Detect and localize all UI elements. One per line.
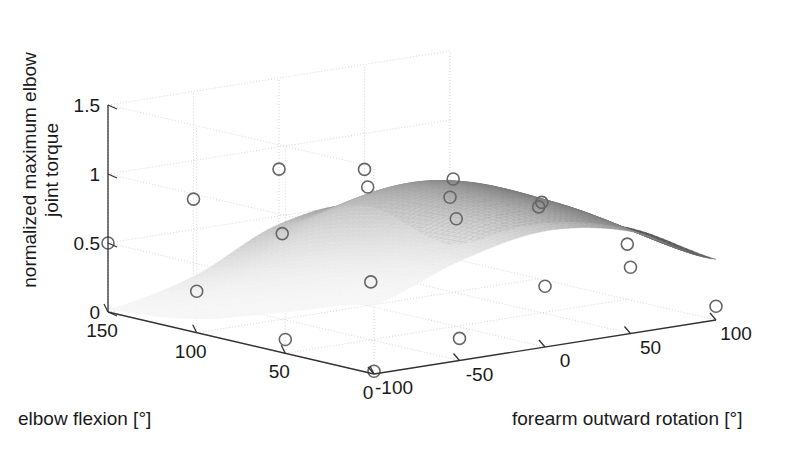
svg-text:50: 50 (640, 337, 661, 358)
svg-text:0.5: 0.5 (74, 233, 100, 254)
figure-canvas: 00.511.5050100150-100-50050100 normalize… (0, 0, 803, 462)
surface-plot-svg: 00.511.5050100150-100-50050100 (0, 0, 803, 462)
svg-text:0: 0 (363, 382, 374, 403)
svg-text:150: 150 (86, 320, 118, 341)
svg-text:50: 50 (269, 361, 290, 382)
svg-text:0: 0 (560, 350, 571, 371)
svg-text:-100: -100 (375, 377, 413, 398)
svg-text:-50: -50 (466, 364, 493, 385)
svg-text:1: 1 (89, 164, 100, 185)
svg-text:100: 100 (720, 323, 752, 344)
svg-text:100: 100 (175, 341, 207, 362)
svg-text:1.5: 1.5 (74, 95, 100, 116)
